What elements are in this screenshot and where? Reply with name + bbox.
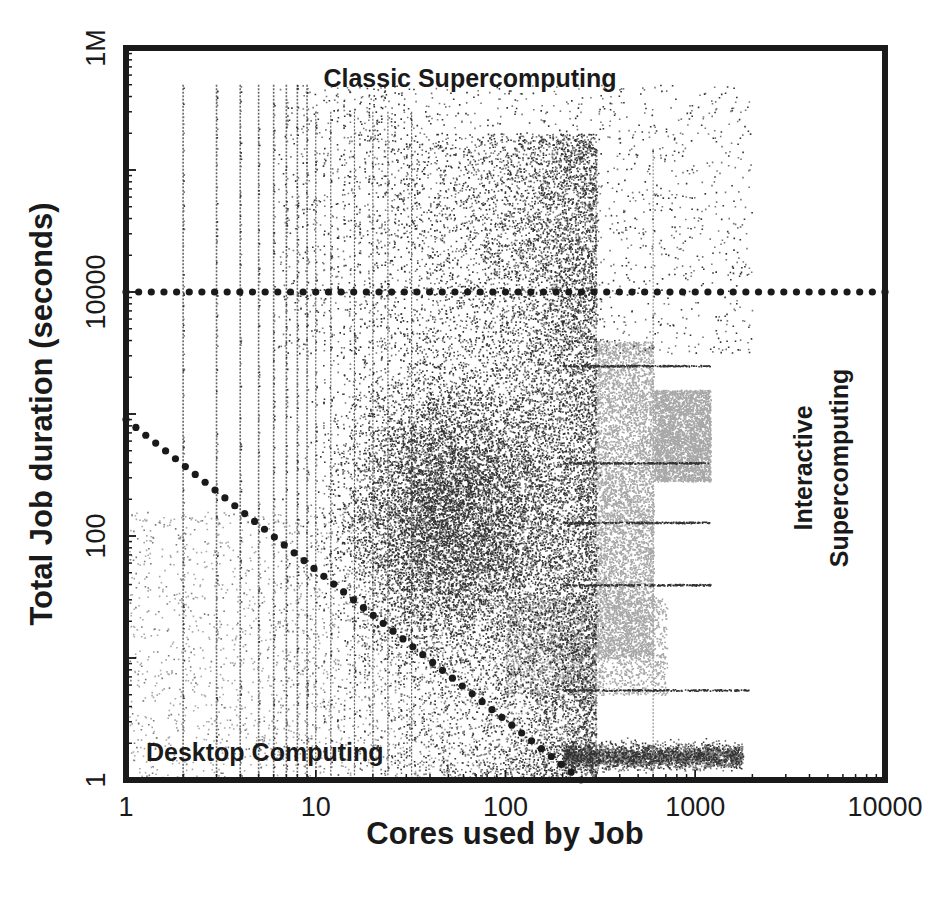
y-tick-100: 100	[81, 513, 111, 558]
label-interactive: Interactive	[789, 405, 817, 530]
y-axis-title: Total Job duration (seconds)	[24, 202, 59, 625]
scatter-chart: 1 10 100 1000 10000 Cores used by Job 1 …	[0, 0, 949, 906]
scatter-points	[129, 85, 753, 779]
x-axis-title: Cores used by Job	[366, 816, 643, 851]
x-tick-1000: 1000	[665, 792, 725, 822]
label-classic-supercomputing: Classic Supercomputing	[323, 64, 616, 92]
x-tick-10: 10	[301, 792, 331, 822]
label-desktop-computing: Desktop Computing	[146, 738, 384, 766]
x-tick-1: 1	[118, 792, 133, 822]
y-tick-1: 1	[81, 772, 111, 787]
region-labels: Classic Supercomputing Desktop Computing…	[146, 64, 853, 766]
y-tick-1M: 1M	[81, 29, 111, 67]
label-supercomputing: Supercomputing	[825, 369, 853, 568]
x-tick-10000: 10000	[847, 792, 922, 822]
y-tick-10000: 10000	[81, 254, 111, 329]
y-axis: 1 100 10000 1M Total Job duration (secon…	[24, 29, 111, 787]
x-axis: 1 10 100 1000 10000 Cores used by Job	[118, 792, 922, 851]
